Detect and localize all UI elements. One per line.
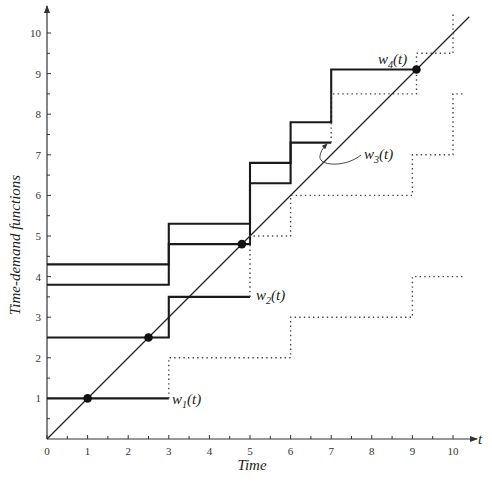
- y-tick-label: 7: [36, 149, 42, 161]
- x-tick-label: 1: [85, 445, 91, 457]
- label-w4: w4(t): [378, 51, 407, 70]
- intersection-dot: [144, 333, 153, 342]
- reference-line-t: [47, 17, 469, 439]
- y-tick-label: 4: [36, 271, 42, 283]
- y-axis-title: Time-demand functions: [7, 175, 23, 316]
- step-function-4: [47, 70, 417, 265]
- y-tick-label: 6: [36, 189, 42, 201]
- label-w3: w3(t): [364, 146, 393, 165]
- x-tick-label: 10: [448, 445, 460, 457]
- y-tick-label: 5: [36, 230, 42, 242]
- x-tick-label: 2: [125, 445, 131, 457]
- x-tick-label: 9: [410, 445, 416, 457]
- axes: 012345678910 12345678910 t Time Time-dem…: [7, 6, 483, 473]
- label-w2: w2(t): [256, 287, 285, 306]
- y-tick-label: 3: [36, 311, 42, 323]
- w3-pointer-arrow: [320, 144, 361, 164]
- x-tick-label: 8: [369, 445, 375, 457]
- intersection-dot: [412, 65, 421, 74]
- step-function-2: [47, 297, 250, 338]
- x-tick-label: 7: [328, 445, 334, 457]
- x-tick-label: 6: [288, 445, 294, 457]
- x-tick-label: 3: [166, 445, 172, 457]
- series-layer: [47, 13, 465, 399]
- label-w1: w1(t): [172, 391, 201, 410]
- intersection-dot: [238, 240, 247, 249]
- dotted-continuation-6: [331, 13, 453, 143]
- x-tick-label: 0: [44, 445, 50, 457]
- y-tick-label: 2: [36, 352, 42, 364]
- y-tick-label: 8: [36, 108, 42, 120]
- x-tick-label: 5: [247, 445, 253, 457]
- x-axis-title: Time: [237, 457, 267, 473]
- x-ticks: 012345678910: [44, 435, 459, 457]
- y-tick-label: 9: [36, 68, 42, 80]
- y-tick-label: 10: [30, 27, 42, 39]
- series-labels: w1(t) w2(t) w3(t) w4(t): [172, 51, 407, 410]
- time-demand-chart: 012345678910 12345678910 t Time Time-dem…: [0, 0, 492, 485]
- intersection-dot: [83, 394, 92, 403]
- x-axis-symbol: t: [478, 431, 483, 447]
- dotted-continuation-5: [250, 94, 465, 297]
- y-tick-label: 1: [36, 392, 42, 404]
- x-tick-label: 4: [207, 445, 213, 457]
- dotted-continuation-4: [169, 277, 465, 399]
- y-ticks: 12345678910: [30, 27, 51, 419]
